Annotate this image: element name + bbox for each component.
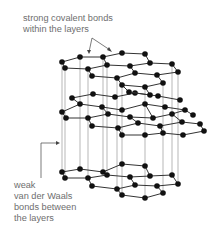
vdw-arrowhead	[56, 141, 60, 145]
bottom-layer-atom-6	[85, 175, 91, 181]
bottom-layer-atom-4	[142, 163, 148, 169]
middle-layer-atom-26	[201, 128, 207, 134]
middle-layer-atom-1	[90, 91, 96, 97]
middle-layer-atom-4	[155, 93, 161, 99]
middle-layer-atom-14	[63, 115, 69, 121]
middle-layer-atom-12	[182, 107, 188, 113]
bottom-layer-bond-2	[103, 164, 122, 172]
middle-layer-bond-36	[183, 131, 204, 135]
middle-layer-atom-25	[197, 121, 203, 127]
top-layer-bond-16	[157, 72, 178, 75]
bottom-layer-bond-6	[88, 175, 107, 178]
top-layer-atom-9	[147, 60, 153, 66]
middle-layer-bond-0	[72, 94, 93, 98]
top-layer-bond-2	[103, 53, 122, 57]
vdw-arrow	[41, 143, 57, 178]
middle-layer-atom-8	[99, 104, 105, 110]
covalent-arrow-2	[92, 38, 110, 50]
bottom-layer-atom-13	[132, 182, 138, 188]
covalent-arrow-1	[89, 38, 92, 52]
top-layer-atom-6	[85, 66, 91, 72]
middle-layer-bond-15	[88, 114, 108, 118]
middle-layer-atom-29	[160, 130, 166, 136]
middle-layer-bond-23	[92, 126, 118, 128]
bottom-layer-bond-8	[130, 176, 150, 177]
top-layer-atom-1	[77, 54, 83, 60]
top-layer-atom-10	[169, 61, 175, 67]
top-layer-atom-11	[89, 73, 95, 79]
top-layer-atom-5	[62, 65, 68, 71]
middle-layer-atom-23	[157, 123, 163, 129]
top-layer-atom-20	[147, 92, 153, 98]
bottom-layer-atom-5	[62, 175, 68, 181]
bottom-layer-atom-7	[104, 172, 110, 178]
bottom-layer-atom-11	[89, 183, 95, 189]
top-layer-bond-5	[65, 68, 88, 69]
top-layer-atom-12	[114, 75, 120, 81]
middle-layer-atom-13	[190, 112, 196, 118]
top-layer-atom-17	[142, 84, 148, 90]
bottom-layer-atom-15	[175, 181, 181, 187]
top-layer-atom-2	[100, 54, 106, 60]
middle-layer-bond-24	[118, 123, 138, 128]
bottom-layer-bond-13	[92, 186, 117, 189]
middle-layer-bond-4	[158, 96, 180, 100]
middle-layer-bond-8	[122, 104, 145, 110]
middle-layer-bond-17	[130, 117, 153, 118]
middle-layer-atom-17	[127, 114, 133, 120]
top-layer-atom-8	[127, 63, 133, 69]
bottom-layer-atom-16	[119, 192, 125, 198]
top-layer-atom-18	[160, 80, 166, 86]
graphite-structure-diagram	[0, 0, 219, 237]
middle-layer-bond-18	[153, 114, 172, 118]
middle-layer-bond-34	[163, 133, 183, 135]
middle-layer-atom-10	[142, 101, 148, 107]
top-layer-atom-3	[119, 50, 125, 56]
bottom-layer-bond-7	[107, 175, 130, 177]
middle-layer-atom-0	[69, 95, 75, 101]
top-layer-bond-14	[117, 73, 135, 78]
bottom-layer-atom-8	[127, 174, 133, 180]
middle-layer-bond-6	[80, 104, 102, 107]
middle-layer-atom-16	[105, 111, 111, 117]
top-layer-bond-15	[135, 73, 157, 75]
bottom-layer-atom-14	[154, 183, 160, 189]
middle-layer-atom-19	[169, 111, 175, 117]
top-layer-atom-4	[142, 51, 148, 57]
bottom-layer-atom-0	[59, 169, 65, 175]
top-layer-atom-0	[59, 59, 65, 65]
top-layer-bond-3	[122, 53, 145, 54]
middle-layer-bond-16	[108, 114, 130, 117]
top-layer-bond-9	[150, 63, 172, 64]
middle-layer-atom-22	[135, 120, 141, 126]
bottom-layer-atom-3	[119, 161, 125, 167]
bottom-layer-bond-1	[80, 169, 103, 172]
middle-layer-atom-11	[162, 104, 168, 110]
middle-layer-atom-21	[115, 125, 121, 131]
top-layer-atom-19	[126, 89, 132, 95]
middle-layer-atom-20	[89, 123, 95, 129]
bottom-layer-atom-9	[147, 173, 153, 179]
top-layer-atom-13	[132, 70, 138, 76]
middle-layer-bond-1	[93, 94, 115, 97]
middle-layer-bond-7	[102, 107, 122, 110]
top-layer-bond-20	[122, 85, 145, 87]
bottom-layer-atom-18	[160, 190, 166, 196]
covalent-arrowhead-1	[87, 50, 91, 54]
bottom-layer-bond-21	[145, 193, 163, 198]
top-layer-atom-14	[154, 72, 160, 78]
top-layer-bond-8	[130, 63, 150, 66]
bottom-layer-bond-16	[157, 184, 178, 186]
bottom-layer-atom-12	[114, 186, 120, 192]
middle-layer-atom-6	[59, 109, 65, 115]
top-layer-atom-15	[175, 69, 181, 75]
middle-layer-atom-24	[179, 119, 185, 125]
middle-layer-bond-9	[145, 104, 165, 107]
top-layer-bond-13	[92, 76, 117, 78]
middle-layer-atom-18	[150, 115, 156, 121]
bottom-layer-bond-15	[135, 185, 157, 186]
top-layer-bond-6	[88, 65, 107, 69]
middle-layer-atom-2	[112, 94, 118, 100]
top-layer-atom-16	[119, 82, 125, 88]
bottom-layer-bond-9	[150, 175, 172, 176]
